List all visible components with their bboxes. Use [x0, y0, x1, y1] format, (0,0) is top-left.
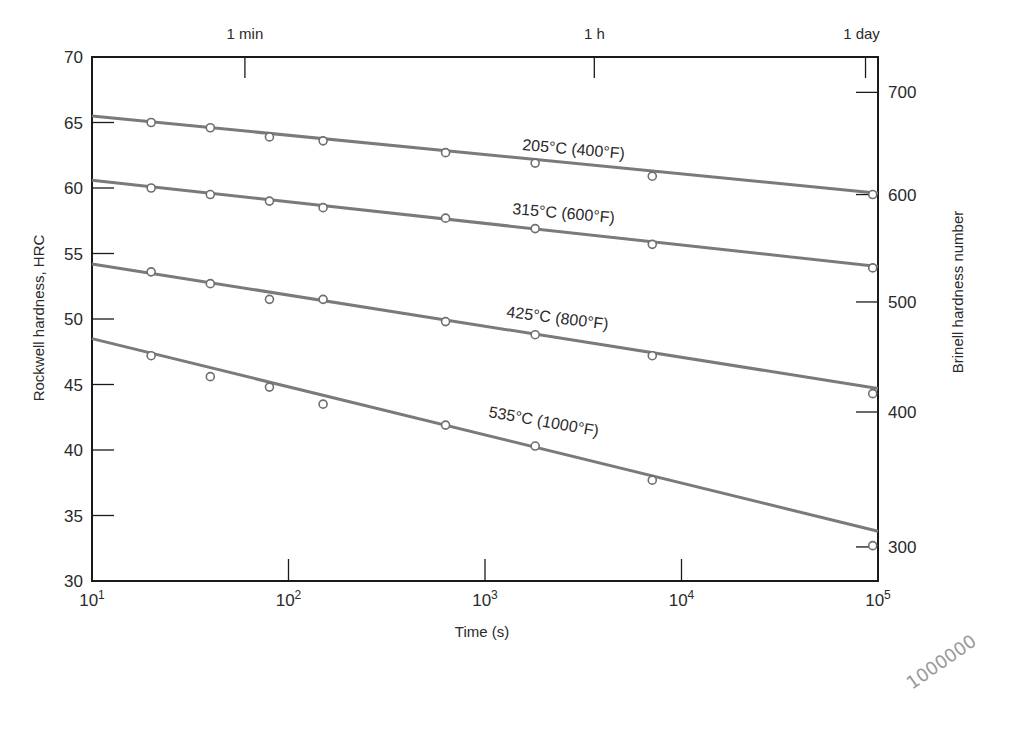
- data-point-marker: [531, 442, 539, 450]
- x-tick-label: 102: [276, 588, 302, 610]
- data-point-marker: [531, 331, 539, 339]
- tempering-hardness-chart: 303540455055606570 700600500400300 10110…: [0, 0, 1026, 732]
- y-axis-title: Rockwell hardness, HRC: [30, 234, 47, 401]
- data-point-marker: [206, 373, 214, 381]
- handwritten-annotation: 1000000: [902, 630, 980, 693]
- y-right-tick-label: 600: [888, 186, 916, 205]
- data-point-marker: [648, 172, 656, 180]
- x-axis-title: Time (s): [455, 623, 509, 640]
- series-label: 315°C (600°F): [512, 200, 616, 226]
- y-right-tick-label: 400: [888, 403, 916, 422]
- data-point-marker: [648, 476, 656, 484]
- data-point-marker: [206, 191, 214, 199]
- data-point-marker: [265, 197, 273, 205]
- data-point-marker: [442, 421, 450, 429]
- data-point-marker: [319, 204, 327, 212]
- data-point-marker: [265, 295, 273, 303]
- series-label: 205°C (400°F): [522, 136, 626, 162]
- data-point-marker: [442, 318, 450, 326]
- data-point-marker: [147, 184, 155, 192]
- series-0: 205°C (400°F): [92, 116, 878, 199]
- data-point-marker: [319, 295, 327, 303]
- y-tick-label: 35: [64, 507, 83, 526]
- series-label: 535°C (1000°F): [487, 403, 600, 439]
- data-point-marker: [147, 268, 155, 276]
- x-tick-label: 103: [472, 588, 498, 610]
- x-tick-label: 101: [79, 588, 105, 610]
- data-point-marker: [265, 383, 273, 391]
- data-point-marker: [147, 119, 155, 127]
- y-tick-label: 30: [64, 572, 83, 591]
- data-point-marker: [869, 390, 877, 398]
- data-point-marker: [147, 352, 155, 360]
- y-tick-label: 45: [64, 376, 83, 395]
- x-tick-label: 105: [865, 588, 891, 610]
- y-right-tick-label: 500: [888, 293, 916, 312]
- y-right-axis-title: Brinell hardness number: [949, 211, 966, 374]
- y-tick-label: 70: [64, 48, 83, 67]
- y-tick-label: 65: [64, 114, 83, 133]
- y-right-tick-label: 300: [888, 538, 916, 557]
- series-group: 205°C (400°F)315°C (600°F)425°C (800°F)5…: [92, 116, 878, 550]
- x-tick-label: 104: [669, 588, 695, 610]
- data-point-marker: [319, 137, 327, 145]
- y-right-tick-label: 700: [888, 83, 916, 102]
- data-point-marker: [206, 280, 214, 288]
- data-point-marker: [442, 149, 450, 157]
- y-tick-label: 50: [64, 310, 83, 329]
- data-point-marker: [648, 240, 656, 248]
- data-point-marker: [869, 542, 877, 550]
- data-point-marker: [206, 124, 214, 132]
- data-point-marker: [319, 400, 327, 408]
- y-tick-label: 60: [64, 179, 83, 198]
- y-tick-label: 55: [64, 245, 83, 264]
- top-tick-label: 1 day: [843, 25, 880, 42]
- y-tick-label: 40: [64, 441, 83, 460]
- top-tick-label: 1 h: [584, 25, 605, 42]
- data-point-marker: [869, 191, 877, 199]
- data-point-marker: [531, 159, 539, 167]
- fit-line: [92, 339, 878, 532]
- data-point-marker: [265, 133, 273, 141]
- top-time-axis: 1 min1 h1 day: [227, 25, 881, 78]
- series-label: 425°C (800°F): [506, 303, 610, 332]
- left-y-axis: 303540455055606570: [64, 48, 114, 591]
- series-1: 315°C (600°F): [92, 180, 878, 272]
- right-y-axis: 700600500400300: [856, 83, 916, 557]
- data-point-marker: [648, 352, 656, 360]
- data-point-marker: [869, 264, 877, 272]
- top-tick-label: 1 min: [227, 25, 264, 42]
- data-point-marker: [442, 214, 450, 222]
- data-point-marker: [531, 225, 539, 233]
- x-axis: 101102103104105: [79, 559, 891, 610]
